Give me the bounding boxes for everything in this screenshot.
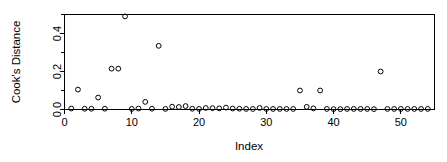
data-point <box>150 106 155 111</box>
data-point <box>351 107 356 112</box>
data-point <box>102 106 107 111</box>
data-point <box>419 107 424 112</box>
data-point <box>89 106 94 111</box>
data-point <box>116 66 121 71</box>
data-point <box>244 107 249 112</box>
x-tick-label: 30 <box>260 116 272 128</box>
data-point <box>76 87 81 92</box>
data-point <box>284 107 289 112</box>
data-point <box>291 107 296 112</box>
data-point <box>385 107 390 112</box>
data-point <box>217 106 222 111</box>
y-tick-label: 0.4 <box>51 26 63 41</box>
chart-page: 0.00.20.4 01020304050 Cook's Distance In… <box>0 0 447 162</box>
data-point <box>143 100 148 105</box>
cooks-distance-scatter-plot: 0.00.20.4 01020304050 Cook's Distance In… <box>0 0 447 162</box>
data-point <box>250 107 255 112</box>
y-tick-label: 0.2 <box>51 64 63 79</box>
x-tick-label: 0 <box>61 116 67 128</box>
data-point <box>69 106 74 111</box>
data-point <box>190 106 195 111</box>
data-point <box>96 95 101 100</box>
data-point <box>271 107 276 112</box>
data-point <box>378 69 383 74</box>
data-point <box>109 66 114 71</box>
data-point <box>358 107 363 112</box>
data-point <box>365 107 370 112</box>
x-axis-tick-labels: 01020304050 <box>61 116 407 128</box>
data-point <box>170 104 175 109</box>
data-point <box>318 88 323 93</box>
data-point <box>304 104 309 109</box>
data-point <box>405 107 410 112</box>
data-point <box>298 88 303 93</box>
data-point <box>237 106 242 111</box>
data-point <box>392 107 397 112</box>
data-point <box>183 104 188 109</box>
data-point <box>425 107 430 112</box>
data-point <box>163 107 168 112</box>
x-tick-label: 20 <box>193 116 205 128</box>
data-point <box>412 107 417 112</box>
data-point <box>136 106 141 111</box>
data-point <box>230 106 235 111</box>
x-axis-title: Index <box>235 140 263 152</box>
x-tick-label: 50 <box>395 116 407 128</box>
x-axis-ticks <box>65 110 401 114</box>
data-point <box>311 106 316 111</box>
data-point <box>82 106 87 111</box>
data-point-series <box>69 14 430 112</box>
y-axis-tick-labels: 0.00.20.4 <box>51 26 63 117</box>
data-point <box>345 107 350 112</box>
data-point <box>277 107 282 112</box>
y-axis-title: Cook's Distance <box>10 21 22 104</box>
data-point <box>324 107 329 112</box>
x-tick-label: 40 <box>327 116 339 128</box>
plot-frame <box>65 15 435 110</box>
data-point <box>156 43 161 48</box>
x-tick-label: 10 <box>126 116 138 128</box>
data-point <box>176 105 181 110</box>
